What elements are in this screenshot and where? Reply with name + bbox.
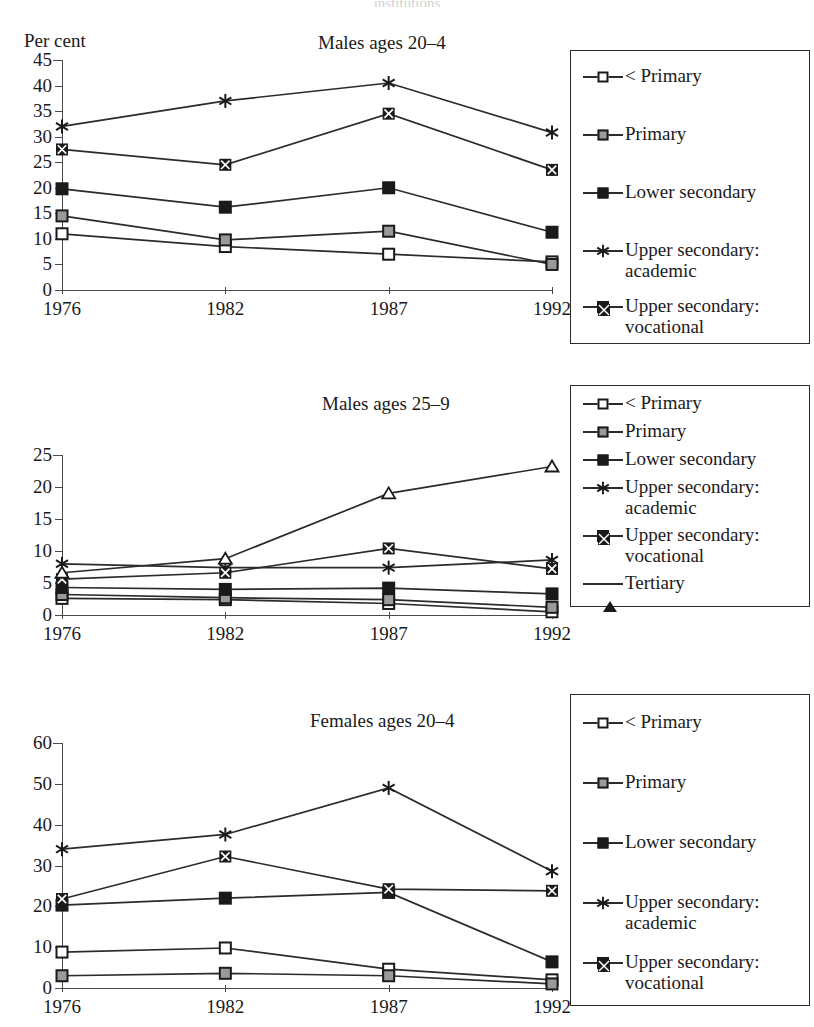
open-triangle-marker: [603, 584, 617, 612]
legend-label: < Primary: [625, 711, 702, 732]
legend-label: Lower secondary: [625, 448, 756, 469]
y-axis-tick: [55, 86, 62, 87]
y-axis-tick-label: 10: [33, 540, 52, 562]
series-layer: [62, 455, 552, 619]
legend-label: Upper secondary: academic: [625, 476, 760, 518]
y-axis-tick: [53, 60, 62, 61]
legend-symbol-lower_secondary: [581, 834, 625, 852]
series-upper_academic: [56, 781, 558, 878]
crossed-square-marker: [383, 883, 395, 895]
grey-square-marker: [547, 978, 558, 989]
open-triangle-marker: [219, 553, 232, 564]
x-axis-tick-label: 1982: [206, 623, 244, 645]
series-layer: [62, 743, 552, 992]
grey-square-marker: [383, 970, 394, 981]
legend-item-primary[interactable]: Primary: [581, 771, 686, 792]
legend-item-lt_primary[interactable]: < Primary: [581, 392, 702, 413]
legend-item-upper_academic[interactable]: Upper secondary: academic: [581, 891, 760, 933]
y-axis-tick-label: 50: [33, 773, 52, 795]
black-square-marker: [383, 583, 394, 594]
y-axis-tick: [55, 111, 62, 112]
open-square-marker: [383, 249, 394, 260]
black-square-marker: [383, 182, 394, 193]
y-axis-tick: [55, 519, 62, 520]
crossed-square-marker: [597, 530, 609, 542]
series-upper_vocational: [56, 851, 558, 905]
series-upper_academic: [56, 553, 558, 575]
grey-square-marker: [598, 130, 609, 141]
grey-square-marker: [57, 970, 68, 981]
y-axis-tick-label: 25: [33, 444, 52, 466]
legend-item-lower_secondary[interactable]: Lower secondary: [581, 831, 756, 852]
black-square-marker: [598, 188, 609, 199]
legend-item-lt_primary[interactable]: < Primary: [581, 711, 702, 732]
y-axis-tick: [55, 551, 62, 552]
y-axis-tick: [53, 455, 62, 456]
grey-square-marker: [598, 778, 609, 789]
black-square-marker: [57, 183, 68, 194]
x-axis-tick-label: 1976: [43, 996, 81, 1018]
open-square-marker: [57, 947, 68, 958]
legend-item-lower_secondary[interactable]: Lower secondary: [581, 448, 756, 469]
legend-symbol-upper_academic: [581, 242, 625, 260]
x-axis-tick-label: 1992: [533, 298, 571, 320]
black-square-marker: [547, 956, 558, 967]
legend-item-lt_primary[interactable]: < Primary: [581, 65, 702, 86]
legend-item-tertiary[interactable]: Tertiary: [581, 572, 685, 593]
open-square-marker: [598, 72, 609, 83]
crossed-square-marker: [597, 957, 609, 969]
legend-item-upper_vocational[interactable]: Upper secondary: vocational: [581, 524, 760, 566]
legend-item-upper_academic[interactable]: Upper secondary: academic: [581, 239, 760, 281]
legend-item-upper_vocational[interactable]: Upper secondary: vocational: [581, 951, 760, 993]
open-square-marker: [598, 399, 609, 410]
legend-item-lower_secondary[interactable]: Lower secondary: [581, 181, 756, 202]
legend-label: Upper secondary: academic: [625, 239, 760, 281]
series-primary: [57, 968, 558, 990]
legend-symbol-lt_primary: [581, 68, 625, 86]
legend-symbol-primary: [581, 774, 625, 792]
open-square-marker: [57, 228, 68, 239]
y-axis-tick: [55, 137, 62, 138]
chart-legend: < PrimaryPrimaryLower secondaryUpper sec…: [570, 50, 810, 344]
legend-symbol-lt_primary: [581, 714, 625, 732]
legend-label: Lower secondary: [625, 181, 756, 202]
legend-item-primary[interactable]: Primary: [581, 123, 686, 144]
open-square-marker: [220, 942, 231, 953]
black-square-marker: [598, 838, 609, 849]
series-lower_secondary: [57, 887, 558, 967]
y-axis-tick-label: 15: [33, 508, 52, 530]
legend-label: Tertiary: [625, 572, 685, 593]
y-axis-tick: [53, 743, 62, 744]
chart-title: Males ages 20–4: [318, 32, 446, 54]
crossed-square-marker: [546, 164, 558, 176]
legend-label: < Primary: [625, 65, 702, 86]
chart-panel-females-20-4: Females ages 20–401020304050601976198219…: [0, 688, 814, 1027]
x-axis-tick-label: 1987: [370, 298, 408, 320]
y-axis-tick-label: 40: [33, 814, 52, 836]
legend-symbol-tertiary: [581, 575, 625, 593]
legend-label: Upper secondary: vocational: [625, 951, 760, 993]
x-axis-tick-label: 1992: [533, 996, 571, 1018]
legend-item-primary[interactable]: Primary: [581, 420, 686, 441]
legend-item-upper_vocational[interactable]: Upper secondary: vocational: [581, 295, 760, 337]
black-square-marker: [547, 227, 558, 238]
y-axis-tick: [55, 264, 62, 265]
legend-symbol-lt_primary: [581, 395, 625, 413]
cut-off-page-title: institutions: [0, 0, 814, 7]
grey-square-marker: [383, 226, 394, 237]
chart-title: Males ages 25–9: [322, 393, 450, 415]
grey-square-marker: [383, 594, 394, 605]
y-axis-tick-label: 30: [33, 855, 52, 877]
open-triangle-marker: [546, 461, 559, 472]
y-axis-tick-label: 5: [43, 572, 53, 594]
y-axis-tick-label: 10: [33, 936, 52, 958]
legend-label: < Primary: [625, 392, 702, 413]
legend-symbol-upper_vocational: [581, 954, 625, 972]
series-primary: [57, 210, 558, 270]
legend-label: Lower secondary: [625, 831, 756, 852]
y-axis-tick: [55, 866, 62, 867]
grey-square-marker: [220, 234, 231, 245]
legend-item-upper_academic[interactable]: Upper secondary: academic: [581, 476, 760, 518]
series-upper_academic: [56, 76, 558, 140]
black-square-marker: [220, 893, 231, 904]
